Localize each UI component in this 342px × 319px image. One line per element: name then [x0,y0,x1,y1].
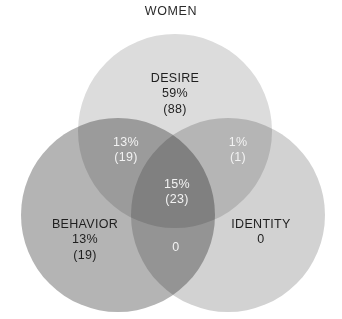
region-name-desire: DESIRE [151,71,199,86]
venn-circles-svg [0,0,342,319]
region-count-desire-behavior: (19) [113,150,139,165]
region-percent-behavior-identity: 0 [172,240,179,255]
region-percent-behavior: 13% [52,232,118,247]
region-percent-desire-identity: 1% [229,135,248,150]
region-count-all-three: (23) [164,192,190,207]
region-name-behavior: BEHAVIOR [52,217,118,232]
region-count-desire: (88) [151,102,199,117]
region-percent-desire-behavior: 13% [113,135,139,150]
region-count-desire-identity: (1) [229,150,248,165]
region-percent-all-three: 15% [164,177,190,192]
region-percent-desire: 59% [151,86,199,101]
region-name-identity: IDENTITY [231,217,290,232]
venn-diagram-figure: WOMEN DESIRE 59% (88) BEHAVIOR 13% (19) … [0,0,342,319]
region-label-behavior-identity: 0 [172,240,179,255]
region-label-desire-identity: 1% (1) [229,135,248,166]
region-label-behavior-only: BEHAVIOR 13% (19) [52,217,118,263]
region-label-desire-behavior: 13% (19) [113,135,139,166]
region-count-behavior: (19) [52,248,118,263]
region-label-identity-only: IDENTITY 0 [231,217,290,248]
region-label-desire-only: DESIRE 59% (88) [151,71,199,117]
region-label-all-three: 15% (23) [164,177,190,208]
region-percent-identity: 0 [231,232,290,247]
